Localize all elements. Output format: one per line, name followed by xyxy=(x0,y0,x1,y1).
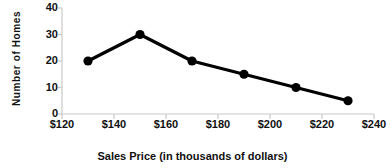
plot-svg xyxy=(62,8,374,114)
x-axis-title: Sales Price (in thousands of dollars) xyxy=(0,150,385,162)
y-tick-label: 30 xyxy=(32,29,58,40)
data-point-marker[interactable] xyxy=(135,30,144,39)
data-point-marker[interactable] xyxy=(343,96,352,105)
data-line xyxy=(88,35,348,101)
data-point-marker[interactable] xyxy=(83,56,92,65)
x-tick-label: $120 xyxy=(40,118,84,131)
x-tick-label: $240 xyxy=(352,118,391,131)
data-point-marker[interactable] xyxy=(239,70,248,79)
x-axis-tick-labels: $120$140$160$180$200$220$240 xyxy=(0,118,385,136)
plot-area xyxy=(62,8,374,114)
x-tick-label: $200 xyxy=(248,118,292,131)
x-tick-label: $220 xyxy=(300,118,344,131)
x-tick-label: $140 xyxy=(92,118,136,131)
y-tick-label: 10 xyxy=(32,82,58,93)
data-point-marker[interactable] xyxy=(187,56,196,65)
y-axis-title: Number of Homes xyxy=(11,0,22,119)
y-tick-label: 40 xyxy=(32,2,58,13)
y-axis-tick-labels: 010203040 xyxy=(28,0,58,120)
data-point-marker[interactable] xyxy=(291,83,300,92)
x-tick-label: $180 xyxy=(196,118,240,131)
y-tick-label: 20 xyxy=(32,55,58,66)
x-tick-label: $160 xyxy=(144,118,188,131)
